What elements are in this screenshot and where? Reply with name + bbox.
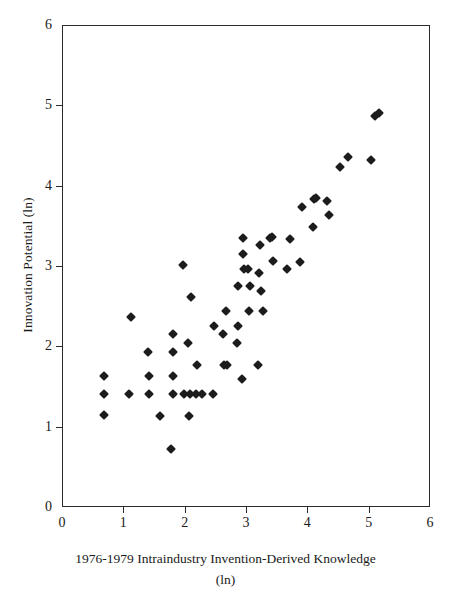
scatter-chart: Innovation Potential (ln) 0123456 012345… <box>0 0 451 600</box>
y-tick-mark <box>56 105 62 106</box>
x-tick-label: 0 <box>42 516 82 530</box>
x-tick-mark <box>123 507 124 513</box>
y-tick-label: 0 <box>22 500 52 514</box>
x-tick-label: 1 <box>103 516 143 530</box>
y-tick-label: 1 <box>22 420 52 434</box>
x-tick-label: 3 <box>226 516 266 530</box>
y-tick-mark <box>56 427 62 428</box>
x-axis-label-line-1: 1976-1979 Intraindustry Invention-Derive… <box>75 551 375 566</box>
x-tick-label: 5 <box>349 516 389 530</box>
y-tick-label: 3 <box>22 259 52 273</box>
x-axis-label: 1976-1979 Intraindustry Invention-Derive… <box>0 548 451 590</box>
x-tick-label: 6 <box>410 516 450 530</box>
x-tick-mark <box>185 507 186 513</box>
x-tick-label: 2 <box>165 516 205 530</box>
x-tick-label: 4 <box>287 516 327 530</box>
x-tick-mark <box>369 507 370 513</box>
y-tick-label: 6 <box>22 18 52 32</box>
y-tick-label: 4 <box>22 179 52 193</box>
y-tick-label: 5 <box>22 98 52 112</box>
y-tick-mark <box>56 266 62 267</box>
x-tick-mark <box>307 507 308 513</box>
x-axis-label-line-2: (ln) <box>0 569 451 590</box>
y-tick-mark <box>56 186 62 187</box>
y-tick-mark <box>56 346 62 347</box>
y-axis-ticks: 0123456 <box>0 0 451 600</box>
y-tick-label: 2 <box>22 339 52 353</box>
x-tick-mark <box>246 507 247 513</box>
